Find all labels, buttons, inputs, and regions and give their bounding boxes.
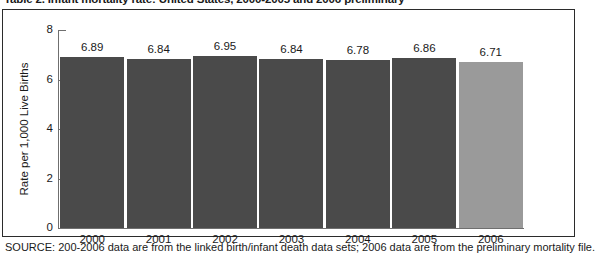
bar-group: 6.712006 xyxy=(458,30,524,228)
bar-group: 6.862005 xyxy=(391,30,457,228)
y-axis-tick-label: 6 xyxy=(47,74,53,86)
bar-group: 6.952002 xyxy=(192,30,258,228)
bar[interactable] xyxy=(193,56,257,228)
bar-value-label: 6.89 xyxy=(81,41,103,53)
figure-title: Table 2. Infant mortality rate: United S… xyxy=(4,0,579,6)
bar-value-label: 6.86 xyxy=(413,42,435,54)
bar-value-label: 6.78 xyxy=(347,44,369,56)
bar-group: 6.842003 xyxy=(258,30,324,228)
bar-value-label: 6.84 xyxy=(147,43,169,55)
x-axis-line xyxy=(58,228,524,229)
plot-area: Rate per 1,000 Live Births 02468 6.89200… xyxy=(58,30,524,229)
bar-value-label: 6.84 xyxy=(280,43,302,55)
bar[interactable] xyxy=(259,59,323,228)
bar-value-label: 6.95 xyxy=(214,40,236,52)
chart-frame: Rate per 1,000 Live Births 02468 6.89200… xyxy=(2,9,575,237)
bar-group: 6.842001 xyxy=(125,30,191,228)
y-axis-tick-label: 2 xyxy=(47,173,53,185)
bar-group: 6.892000 xyxy=(59,30,125,228)
bar-group: 6.782004 xyxy=(325,30,391,228)
y-axis-tick-label: 8 xyxy=(47,24,53,36)
bar[interactable] xyxy=(392,58,456,228)
source-note: SOURCE: 200-2006 data are from the linke… xyxy=(5,241,577,254)
bar-series: 6.8920006.8420016.9520026.8420036.782004… xyxy=(59,30,524,228)
y-axis-title: Rate per 1,000 Live Births xyxy=(18,63,30,196)
y-axis-tick: 0 xyxy=(59,228,66,229)
bar-value-label: 6.71 xyxy=(480,46,502,58)
bar[interactable] xyxy=(326,60,390,228)
y-axis-tick-label: 0 xyxy=(47,222,53,234)
bar[interactable] xyxy=(60,57,124,228)
bar[interactable] xyxy=(127,59,191,228)
y-axis-tick-label: 4 xyxy=(47,123,53,135)
bar[interactable] xyxy=(459,62,523,228)
